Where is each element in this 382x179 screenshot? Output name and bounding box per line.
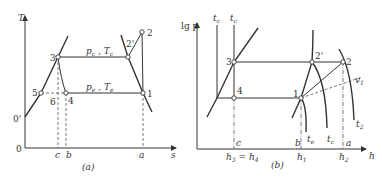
label-2: 2 (147, 28, 153, 38)
label-v1: v1 (355, 75, 364, 86)
label-6: 6 (50, 97, 56, 107)
top-label-tc-2: tc (230, 13, 238, 24)
label-te: te (307, 134, 315, 145)
label-2-b: 2 (346, 57, 352, 67)
saturated-liquid-line-b (207, 28, 258, 117)
caption-a: (a) (82, 162, 95, 172)
label-t2: t2 (356, 119, 364, 130)
label-h2: h2 (339, 152, 349, 163)
point-2-b (341, 60, 345, 64)
refrigeration-cycle-diagrams: T s 0 0' 3 4 5 6 1 2' 2 pc , Tc pe , Te … (0, 0, 382, 179)
ts-diagram: T s 0 0' 3 4 5 6 1 2' 2 pc , Tc pe , Te … (13, 13, 176, 172)
origin-prime-label: 0' (13, 114, 21, 124)
isobar-high-label: pc , Tc (86, 46, 114, 57)
tick-a: a (139, 150, 144, 160)
label-h3-h4: h3 = h4 (226, 152, 259, 163)
label-2prime: 2' (126, 39, 134, 49)
label-2prime-b: 2' (315, 51, 323, 61)
label-3: 3 (50, 53, 56, 63)
point-4-b (232, 96, 236, 100)
isochore-v1 (301, 77, 362, 98)
h-axis-label: h (369, 151, 375, 161)
label-1: 1 (147, 89, 153, 99)
tick-b-b: b (295, 138, 301, 148)
label-tc-vapor: tc (327, 134, 335, 145)
origin-label: 0 (16, 144, 22, 154)
caption-b: (b) (271, 160, 284, 170)
lgp-axis-label: lg p (181, 21, 199, 31)
saturated-vapor-line-b (292, 30, 313, 118)
top-label-tc-1: tc (213, 13, 221, 24)
s-axis-label: s (171, 150, 176, 160)
point-2prime-b (310, 60, 314, 64)
tick-b: b (66, 150, 72, 160)
label-1-b: 1 (293, 89, 299, 99)
point-2 (140, 30, 144, 34)
label-h1: h1 (297, 152, 307, 163)
point-5 (39, 91, 43, 95)
point-1 (141, 91, 145, 95)
point-3 (56, 55, 60, 59)
t-axis-label: T (18, 13, 25, 23)
point-4 (64, 91, 68, 95)
point-3-b (232, 60, 236, 64)
tick-c: c (55, 150, 60, 160)
throttling-curve (58, 57, 66, 93)
point-1-b (299, 96, 303, 100)
tick-a-b: a (346, 138, 351, 148)
label-4: 4 (68, 96, 74, 106)
label-3-b: 3 (226, 57, 232, 67)
isotherm-tc-vapor (312, 62, 327, 128)
point-2prime (126, 55, 130, 59)
isotherm-te (301, 98, 306, 132)
compression-line-b (301, 62, 343, 98)
compression-line (142, 32, 143, 93)
label-4-b: 4 (237, 86, 243, 96)
lgp-h-diagram: lg p h tc tc 3 4 1 2' 2 v1 t2 te tc c b … (181, 13, 375, 170)
label-5: 5 (32, 88, 38, 98)
tick-c-b: c (236, 138, 241, 148)
isobar-low-label: pe , Te (86, 82, 114, 93)
